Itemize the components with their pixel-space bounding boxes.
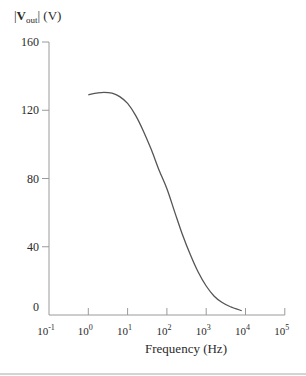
x-tick-label: 103 — [196, 323, 211, 337]
axes — [49, 42, 285, 315]
x-tick-label: 10-1 — [37, 323, 55, 337]
y-tick-label: 120 — [21, 103, 39, 117]
y-tick-label: 80 — [27, 172, 39, 186]
x-tick-label: 100 — [78, 323, 93, 337]
x-tick-label: 101 — [117, 323, 132, 337]
x-ticks: 10-1100101102103104105 — [37, 308, 289, 337]
x-tick-label: 104 — [235, 323, 250, 337]
x-axis-label: Frequency (Hz) — [145, 341, 227, 356]
bottom-divider — [0, 373, 306, 375]
y-tick-label: 160 — [21, 35, 39, 49]
chart-plot: 04080120160 10-1100101102103104105 Frequ… — [0, 0, 306, 376]
y-tick-label: 40 — [27, 240, 39, 254]
x-tick-label: 105 — [274, 323, 289, 337]
x-tick-label: 102 — [156, 323, 171, 337]
y-ticks: 04080120160 — [21, 35, 49, 314]
y-tick-label: 0 — [33, 300, 39, 314]
data-line — [88, 92, 241, 310]
